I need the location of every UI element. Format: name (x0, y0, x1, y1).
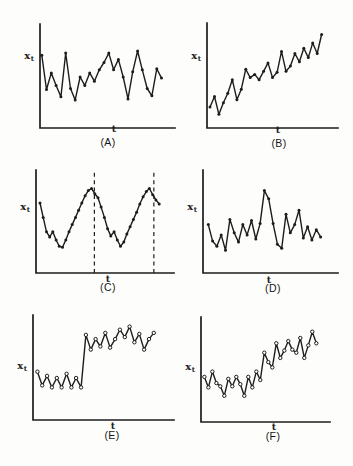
data-point-marker (146, 87, 149, 90)
panel-label-d: (D) (257, 282, 289, 294)
data-point-marker (40, 54, 43, 57)
data-point-marker (315, 228, 318, 231)
data-point-marker (285, 213, 288, 216)
data-point-marker (231, 385, 234, 388)
data-point-marker (135, 211, 138, 214)
data-point-marker (275, 342, 278, 345)
data-point-marker (100, 206, 103, 209)
data-point-marker (90, 187, 93, 190)
data-point-marker (262, 70, 265, 73)
charts-canvas (0, 0, 353, 466)
x-axis-label-a: t (108, 124, 120, 134)
data-point-marker (233, 231, 236, 234)
data-point-marker (45, 88, 48, 91)
y-axis-label-e: xt (5, 360, 27, 375)
figure-time-series-patterns: xt t (A) xt t (B) xt t (C) xt t (D) xt t… (0, 0, 353, 466)
data-point-marker (213, 95, 216, 98)
data-point-marker (36, 370, 39, 373)
data-point-marker (41, 384, 44, 387)
data-point-marker (108, 346, 111, 349)
data-point-marker (244, 68, 247, 71)
data-point-marker (117, 58, 120, 61)
data-point-marker (291, 348, 294, 351)
data-point-marker (84, 194, 87, 197)
data-point-marker (247, 375, 250, 378)
y-axis-label-b: xt (179, 50, 201, 65)
data-point-marker (93, 192, 96, 195)
data-point-marker (220, 233, 223, 236)
series-line (42, 51, 162, 100)
data-point-marker (97, 196, 100, 199)
data-point-marker (142, 348, 145, 351)
data-point-marker (207, 386, 210, 389)
data-point-marker (138, 203, 141, 206)
data-point-marker (243, 394, 246, 397)
data-point-marker (280, 247, 283, 250)
data-point-marker (93, 80, 96, 83)
data-point-marker (289, 231, 292, 234)
data-point-marker (60, 386, 63, 389)
data-point-marker (293, 52, 296, 55)
data-point-marker (99, 345, 102, 348)
data-point-marker (211, 370, 214, 373)
data-point-marker (154, 198, 157, 201)
axes (33, 315, 174, 420)
series-line (208, 191, 320, 251)
panel-d-plot (203, 170, 338, 273)
data-point-marker (118, 328, 121, 331)
data-point-marker (64, 239, 67, 242)
data-point-marker (307, 344, 310, 347)
data-point-marker (59, 95, 62, 98)
data-point-marker (279, 356, 282, 359)
axes (40, 24, 175, 128)
data-point-marker (103, 216, 106, 219)
data-point-marker (303, 356, 306, 359)
data-point-marker (125, 232, 128, 235)
data-point-marker (315, 342, 318, 345)
data-point-marker (316, 52, 319, 55)
data-point-marker (259, 222, 262, 225)
data-point-marker (58, 245, 61, 248)
data-point-marker (298, 209, 301, 212)
data-point-marker (55, 239, 58, 242)
data-point-marker (249, 76, 252, 79)
data-point-marker (148, 187, 151, 190)
x-axis-label-b: t (272, 125, 284, 135)
data-point-marker (151, 193, 154, 196)
data-point-marker (219, 385, 222, 388)
data-point-marker (255, 370, 258, 373)
data-point-marker (113, 337, 116, 340)
data-point-marker (83, 84, 86, 87)
data-point-marker (55, 84, 58, 87)
panel-label-f: (F) (257, 430, 289, 442)
data-point-marker (147, 337, 150, 340)
data-point-marker (280, 50, 283, 53)
data-point-marker (69, 87, 72, 90)
series-line (210, 35, 322, 115)
axes (203, 170, 338, 273)
data-point-marker (283, 349, 286, 352)
data-point-marker (271, 366, 274, 369)
data-point-marker (79, 76, 82, 79)
data-point-marker (122, 76, 125, 79)
data-point-marker (293, 223, 296, 226)
data-point-marker (254, 238, 257, 241)
data-point-marker (263, 351, 266, 354)
data-point-marker (64, 52, 67, 55)
data-point-marker (103, 61, 106, 64)
data-point-marker (74, 216, 77, 219)
data-point-marker (155, 67, 158, 70)
data-point-marker (253, 73, 256, 76)
data-point-marker (258, 78, 261, 81)
data-point-marker (42, 216, 45, 219)
data-point-marker (129, 225, 132, 228)
data-point-marker (222, 101, 225, 104)
panel-label-c: (C) (92, 281, 124, 293)
data-point-marker (263, 189, 266, 192)
data-point-marker (87, 189, 90, 192)
panel-c-plot (36, 170, 174, 273)
data-point-marker (79, 386, 82, 389)
data-point-marker (106, 227, 109, 230)
series-line (40, 189, 159, 248)
data-point-marker (160, 77, 163, 80)
